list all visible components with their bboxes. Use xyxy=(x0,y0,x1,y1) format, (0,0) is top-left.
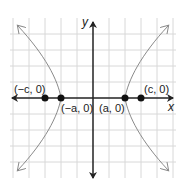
y-axis-label: y xyxy=(81,15,89,29)
vertex-left-point xyxy=(58,95,65,102)
vertex-left-label: (−a, 0) xyxy=(61,102,93,114)
vertex-right-label: (a, 0) xyxy=(99,102,125,114)
axes xyxy=(12,22,173,178)
hyperbola-diagram: y x (−c, 0) (−a, 0) (a, 0) (c, 0) xyxy=(0,0,183,188)
focus-right-label: (c, 0) xyxy=(144,83,169,95)
right-branch-lower xyxy=(125,98,168,170)
x-axis-label: x xyxy=(167,100,175,114)
focus-left-point xyxy=(42,95,49,102)
focus-right-point xyxy=(138,95,145,102)
left-branch-lower xyxy=(18,98,61,170)
vertex-right-point xyxy=(122,95,129,102)
focus-left-label: (−c, 0) xyxy=(14,83,45,95)
